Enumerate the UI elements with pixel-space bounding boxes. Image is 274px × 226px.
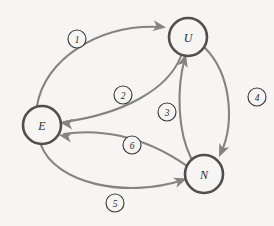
graph-svg: EUN 123456 — [0, 0, 274, 226]
edge-label-badge-4[interactable]: 4 — [248, 88, 266, 106]
edge-n-to-u — [179, 58, 191, 158]
node-e[interactable]: E — [23, 106, 61, 144]
node-label-e: E — [37, 119, 46, 133]
edge-label-text-2: 2 — [121, 91, 126, 101]
arrowhead-u-to-n — [214, 143, 229, 159]
node-u[interactable]: U — [169, 18, 207, 56]
edge-label-badge-6[interactable]: 6 — [123, 136, 141, 154]
nodes-layer: EUN — [23, 18, 223, 193]
edge-label-badge-3[interactable]: 3 — [158, 103, 176, 121]
edge-label-text-6: 6 — [130, 141, 135, 151]
edge-label-badge-2[interactable]: 2 — [114, 86, 132, 104]
edge-label-text-3: 3 — [164, 108, 170, 118]
edge-label-badge-1[interactable]: 1 — [68, 30, 86, 48]
edge-label-badge-5[interactable]: 5 — [106, 194, 124, 212]
edge-label-text-4: 4 — [255, 93, 260, 103]
edge-u-to-n — [205, 48, 229, 153]
edge-label-text-5: 5 — [113, 199, 118, 209]
node-n[interactable]: N — [185, 155, 223, 193]
node-label-n: N — [199, 168, 209, 182]
edge-label-text-1: 1 — [75, 35, 80, 45]
node-label-u: U — [184, 31, 194, 45]
diagram-canvas: EUN 123456 — [0, 0, 274, 226]
edge-e-to-u — [37, 27, 160, 106]
